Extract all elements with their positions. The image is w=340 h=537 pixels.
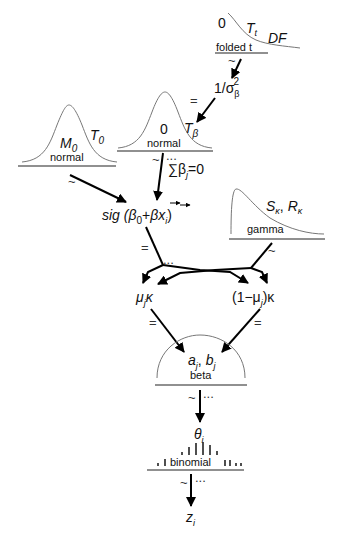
edge-tilde-1: ~ [228, 53, 236, 68]
edge-tilde-2: ~ [152, 152, 160, 167]
beta-param-a: a [188, 352, 196, 368]
normal-0-mean: M [60, 135, 72, 151]
arrow-mu-kappa-to-beta [151, 309, 184, 352]
svg-text:1/σβ2: 1/σβ2 [214, 76, 240, 99]
gamma-node: Sκ,Rκ gamma [229, 189, 325, 239]
z: z [185, 509, 193, 525]
folded-t-param-left: 0 [218, 15, 226, 31]
sigma-beta-label: 1/σ [214, 80, 235, 96]
arrow-normal-0-to-sig [70, 175, 126, 202]
folded-t-node: 0 Tt DF folded t [215, 13, 300, 53]
edge-equals-2: = [141, 240, 149, 255]
gamma-label: gamma [247, 223, 285, 235]
edge-equals-3: = [149, 315, 157, 330]
svg-text:Tβ: Tβ [184, 120, 199, 139]
vector-arrows-icon [170, 203, 190, 205]
edge-equals-4: = [254, 315, 262, 330]
beta-label: beta [190, 369, 212, 381]
folded-t-param-right: DF [268, 30, 288, 46]
svg-text:sig (β0+βxi): sig (β0+βxi) [102, 207, 172, 226]
one-minus-mu-kappa: (1−μ [232, 289, 261, 305]
arrow-one-minus-mu-kappa-to-beta [222, 309, 260, 352]
arrow-sigma-to-normal-beta [197, 98, 215, 122]
mu-kappa: μ [135, 289, 144, 305]
svg-text:zi: zi [185, 509, 196, 528]
edge-equals-1: = [190, 93, 198, 108]
svg-text:T0: T0 [90, 127, 105, 146]
beta-node: aj,bj beta [155, 335, 247, 385]
svg-text:μjκ: μjκ [135, 289, 154, 308]
model-diagram: 0 Tt DF folded t ~ 1/σβ2 = 0 Tβ normal ~… [0, 0, 340, 537]
edge-ellipsis-3: ... [203, 386, 214, 401]
folded-t-label: folded t [216, 41, 252, 53]
svg-text:(1−μj)κ: (1−μj)κ [232, 289, 275, 308]
edge-ellipsis-4: ... [195, 470, 206, 485]
svg-text:Tt: Tt [246, 20, 258, 38]
edge-tilde-5: ~ [188, 390, 196, 405]
edge-tilde-6: ~ [180, 475, 188, 490]
normal-0-node: M0 T0 normal [18, 105, 117, 166]
sum-constraint: ∑β [168, 161, 186, 177]
sig-expression: sig (β [102, 207, 136, 223]
svg-text:Sκ,Rκ: Sκ,Rκ [266, 198, 303, 216]
normal-beta-mean: 0 [160, 121, 168, 137]
svg-text:∑βj=0: ∑βj=0 [168, 161, 204, 180]
binomial-node: binomial [147, 442, 244, 470]
binomial-label: binomial [170, 456, 211, 468]
normal-0-label: normal [50, 151, 84, 163]
